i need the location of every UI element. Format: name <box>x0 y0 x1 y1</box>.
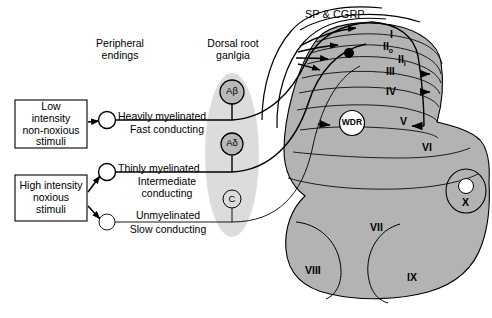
lamina-label-VIII: VIII <box>305 265 321 277</box>
ending-adelta <box>99 164 116 181</box>
arrow-low-to-abeta <box>88 121 99 122</box>
lamina-label-IV: IV <box>386 86 396 98</box>
central-canal <box>459 179 474 194</box>
synaptic-bouton <box>344 48 354 58</box>
ending-c <box>99 214 115 230</box>
fiber-abeta-myelination: Heavily myelinated <box>118 111 206 123</box>
input-to-wdr-left <box>318 124 330 125</box>
arrow-high-to-c <box>88 206 100 219</box>
lamina-label-IX: IX <box>407 272 417 284</box>
lamina-label-X: X <box>462 197 469 209</box>
lamina-label-VII: VII <box>370 222 383 234</box>
fiber-adelta-myelination: Thinly myelinated <box>118 163 200 175</box>
ganglion-label-adelta: Aδ <box>218 138 246 149</box>
stimulus-box-high-label: High intensity noxious stimuli <box>13 180 89 215</box>
stimulus-box-low-label: Low intensity non-noxious stimuli <box>15 101 87 148</box>
ganglion-label-c: C <box>219 194 245 205</box>
ganglion-label-abeta: Aβ <box>218 86 246 97</box>
wdr-neuron-label: WDR <box>338 118 366 128</box>
figure-canvas: Peripheral endings Dorsal root ganlgia L… <box>0 0 492 318</box>
arrow-high-to-adelta <box>88 176 100 192</box>
dorsal-root-ganglia-header: Dorsal root ganlgia <box>185 38 281 62</box>
fiber-adelta-conduction: Intermediate conducting <box>118 176 216 200</box>
lamina-label-V: V <box>400 116 407 128</box>
lamina-label-IIo: IIo <box>383 41 393 55</box>
wdr-inputs <box>318 124 330 125</box>
lamina-label-VI: VI <box>422 142 432 154</box>
lamina-label-IIi: IIi <box>398 54 406 68</box>
lamina-label-III: III <box>386 66 395 78</box>
fiber-c-conduction: Slow conducting <box>122 224 214 236</box>
ending-abeta <box>99 112 116 129</box>
peripheral-endings-header: Peripheral endings <box>62 38 178 62</box>
sp-cgrp-label: SP & CGRP <box>305 8 365 20</box>
fiber-c-myelination: Unmyelinated <box>122 210 214 222</box>
lamina-label-I: I <box>390 29 393 41</box>
fiber-abeta-conduction: Fast conducting <box>118 124 216 136</box>
